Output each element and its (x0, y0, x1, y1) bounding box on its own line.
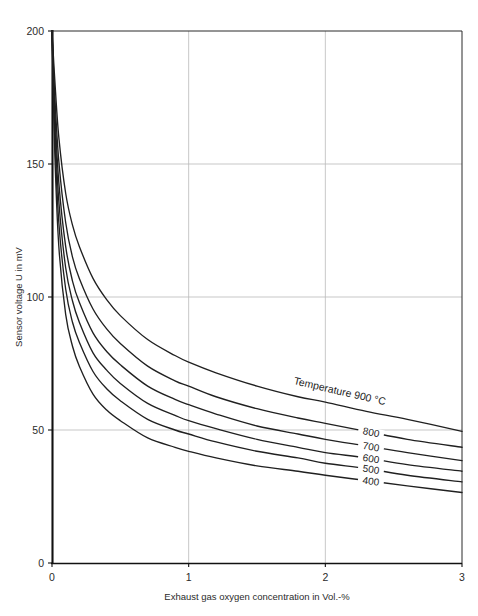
y-tick-label: 0 (38, 557, 44, 569)
y-tick-label: 50 (32, 424, 44, 436)
y-tick-label: 200 (26, 25, 44, 37)
curve-label-400: 400 (362, 475, 380, 488)
x-tick-label: 0 (49, 571, 55, 583)
y-axis-title: Sensor voltage U in mV (13, 246, 24, 346)
chart-background (0, 0, 478, 616)
x-tick-label: 1 (186, 571, 192, 583)
y-tick-label: 100 (26, 291, 44, 303)
chart-figure: 050100150200 0123 800700600500400Tempera… (0, 0, 478, 616)
x-tick-label: 2 (322, 571, 328, 583)
x-tick-label: 3 (459, 571, 465, 583)
y-tick-label: 150 (26, 158, 44, 170)
sensor-voltage-chart: 050100150200 0123 800700600500400Tempera… (0, 0, 478, 616)
x-axis-title: Exhaust gas oxygen concentration in Vol.… (164, 591, 350, 602)
